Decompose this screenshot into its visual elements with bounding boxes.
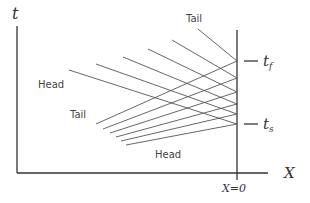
- lower-characteristics: [96, 61, 237, 145]
- tail-top-label: Tail: [185, 13, 202, 24]
- x-axis-label: X: [283, 164, 296, 182]
- t-axis-label: t: [12, 4, 19, 23]
- tf-label: tf: [263, 52, 274, 71]
- origin-label: X=0: [221, 182, 246, 195]
- tail-middle-label: Tail: [69, 109, 86, 120]
- head-lower-label: Head: [155, 149, 181, 160]
- head-upper-label: Head: [38, 79, 64, 90]
- ts-label: ts: [263, 115, 274, 134]
- wave-diagram: t X X=0 tf ts Tail Head Tail Head: [0, 0, 310, 203]
